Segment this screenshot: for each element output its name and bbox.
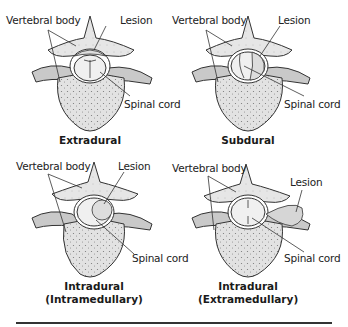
caption-extramedullary: (Extramedullary) — [198, 293, 298, 306]
panel-extramedullary: Vertebral body Lesion Spinal cord Intrad… — [174, 160, 348, 315]
label-vertebral-body: Vertebral body — [16, 160, 91, 172]
panel-extradural: Vertebral body Lesion Spinal cord Extrad… — [0, 0, 174, 155]
label-lesion: Lesion — [120, 14, 152, 26]
caption-intradural: Intradural — [198, 280, 298, 293]
label-vertebral-body: Vertebral body — [6, 14, 81, 26]
label-spinal-cord: Spinal cord — [284, 252, 340, 264]
label-lesion: Lesion — [290, 176, 322, 188]
bottom-rule — [16, 322, 332, 324]
label-vertebral-body: Vertebral body — [172, 162, 247, 174]
caption-intramedullary: (Intramedullary) — [44, 293, 144, 306]
label-lesion: Lesion — [278, 14, 310, 26]
caption-subdural: Subdural — [198, 134, 298, 147]
caption-extradural: Extradural — [40, 134, 140, 147]
label-spinal-cord: Spinal cord — [284, 98, 340, 110]
panel-intramedullary: Vertebral body Lesion Spinal cord Intrad… — [0, 160, 174, 315]
panel-subdural: Vertebral body Lesion Spinal cord Subdur… — [174, 0, 348, 155]
label-vertebral-body: Vertebral body — [172, 14, 247, 26]
label-spinal-cord: Spinal cord — [124, 98, 180, 110]
label-lesion: Lesion — [118, 160, 150, 172]
caption-intradural: Intradural — [44, 280, 144, 293]
